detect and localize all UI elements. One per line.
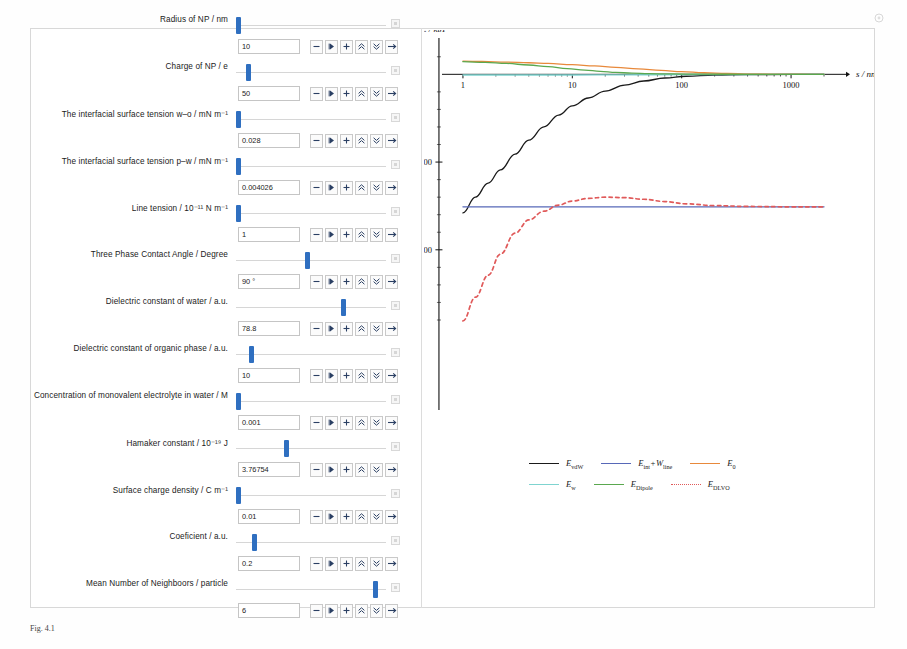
play-button[interactable] — [325, 40, 338, 54]
decrement-button[interactable] — [310, 134, 323, 148]
decrement-button[interactable] — [310, 275, 323, 289]
parameter-value-input[interactable]: 78.8 — [238, 321, 300, 336]
parameter-value-input[interactable]: 0.004026 — [238, 180, 300, 195]
increment-button[interactable] — [340, 181, 353, 195]
decrement-button[interactable] — [310, 416, 323, 430]
play-button[interactable] — [325, 87, 338, 101]
increment-button[interactable] — [340, 369, 353, 383]
slider-track[interactable] — [236, 542, 386, 543]
increment-button[interactable] — [340, 510, 353, 524]
parameter-value-input[interactable]: 0.001 — [238, 415, 300, 430]
slider-thumb[interactable] — [236, 17, 241, 34]
slider-thumb[interactable] — [236, 205, 241, 222]
step-down-button[interactable] — [370, 604, 383, 618]
decrement-button[interactable] — [310, 228, 323, 242]
legend-item[interactable]: EDipole — [594, 479, 653, 491]
slider-thumb[interactable] — [305, 252, 310, 269]
slider-track[interactable] — [236, 495, 386, 496]
step-up-button[interactable] — [355, 134, 368, 148]
play-button[interactable] — [325, 134, 338, 148]
legend-item[interactable]: Ew — [529, 479, 576, 491]
slider-settings-icon[interactable] — [391, 113, 400, 122]
reset-button[interactable] — [385, 228, 398, 242]
step-up-button[interactable] — [355, 322, 368, 336]
step-up-button[interactable] — [355, 87, 368, 101]
reset-button[interactable] — [385, 604, 398, 618]
parameter-value-input[interactable]: 0.028 — [238, 133, 300, 148]
slider-track[interactable] — [236, 213, 386, 214]
step-down-button[interactable] — [370, 369, 383, 383]
reset-button[interactable] — [385, 463, 398, 477]
parameter-value-input[interactable]: 90 ° — [238, 274, 300, 289]
slider-track[interactable] — [236, 260, 386, 261]
step-up-button[interactable] — [355, 181, 368, 195]
slider-settings-icon[interactable] — [391, 395, 400, 404]
reset-button[interactable] — [385, 87, 398, 101]
parameter-value-input[interactable]: 0.2 — [238, 556, 300, 571]
slider-thumb[interactable] — [252, 534, 257, 551]
slider-track[interactable] — [236, 25, 386, 26]
legend-item[interactable]: E0 — [690, 458, 735, 470]
step-down-button[interactable] — [370, 87, 383, 101]
parameter-value-input[interactable]: 1 — [238, 227, 300, 242]
slider-thumb[interactable] — [249, 346, 254, 363]
slider-thumb[interactable] — [236, 393, 241, 410]
increment-button[interactable] — [340, 275, 353, 289]
slider-settings-icon[interactable] — [391, 489, 400, 498]
slider-thumb[interactable] — [373, 581, 378, 598]
slider-track[interactable] — [236, 448, 386, 449]
decrement-button[interactable] — [310, 87, 323, 101]
target-icon[interactable] — [873, 12, 885, 24]
parameter-value-input[interactable]: 0.01 — [238, 509, 300, 524]
increment-button[interactable] — [340, 557, 353, 571]
step-down-button[interactable] — [370, 416, 383, 430]
step-up-button[interactable] — [355, 510, 368, 524]
slider-thumb[interactable] — [341, 299, 346, 316]
decrement-button[interactable] — [310, 557, 323, 571]
play-button[interactable] — [325, 510, 338, 524]
slider-settings-icon[interactable] — [391, 254, 400, 263]
step-up-button[interactable] — [355, 604, 368, 618]
slider-settings-icon[interactable] — [391, 536, 400, 545]
step-down-button[interactable] — [370, 557, 383, 571]
slider-thumb[interactable] — [284, 440, 289, 457]
slider-thumb[interactable] — [236, 487, 241, 504]
step-down-button[interactable] — [370, 322, 383, 336]
slider-settings-icon[interactable] — [391, 583, 400, 592]
play-button[interactable] — [325, 557, 338, 571]
legend-item[interactable]: Eint+Wline — [601, 458, 672, 470]
legend-item[interactable]: EvdW — [529, 458, 583, 470]
play-button[interactable] — [325, 322, 338, 336]
reset-button[interactable] — [385, 510, 398, 524]
parameter-value-input[interactable]: 3.76754 — [238, 462, 300, 477]
decrement-button[interactable] — [310, 40, 323, 54]
step-up-button[interactable] — [355, 557, 368, 571]
decrement-button[interactable] — [310, 322, 323, 336]
play-button[interactable] — [325, 228, 338, 242]
step-down-button[interactable] — [370, 463, 383, 477]
slider-thumb[interactable] — [236, 111, 241, 128]
increment-button[interactable] — [340, 87, 353, 101]
step-down-button[interactable] — [370, 181, 383, 195]
slider-track[interactable] — [236, 307, 386, 308]
reset-button[interactable] — [385, 134, 398, 148]
step-up-button[interactable] — [355, 369, 368, 383]
parameter-value-input[interactable]: 6 — [238, 603, 300, 618]
step-up-button[interactable] — [355, 40, 368, 54]
increment-button[interactable] — [340, 604, 353, 618]
play-button[interactable] — [325, 275, 338, 289]
step-up-button[interactable] — [355, 275, 368, 289]
slider-track[interactable] — [236, 166, 386, 167]
parameter-value-input[interactable]: 10 — [238, 368, 300, 383]
play-button[interactable] — [325, 463, 338, 477]
parameter-value-input[interactable]: 10 — [238, 39, 300, 54]
legend-item[interactable]: EDLVO — [671, 479, 730, 491]
reset-button[interactable] — [385, 275, 398, 289]
slider-settings-icon[interactable] — [391, 301, 400, 310]
decrement-button[interactable] — [310, 604, 323, 618]
reset-button[interactable] — [385, 181, 398, 195]
step-up-button[interactable] — [355, 228, 368, 242]
slider-settings-icon[interactable] — [391, 66, 400, 75]
increment-button[interactable] — [340, 40, 353, 54]
reset-button[interactable] — [385, 40, 398, 54]
